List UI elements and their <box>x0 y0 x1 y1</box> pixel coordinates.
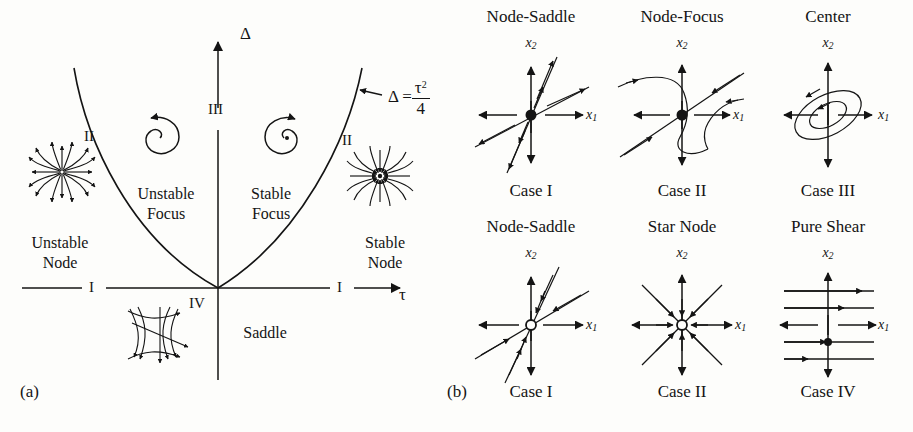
region-label-unstable-node-line1: Unstable <box>32 235 89 251</box>
case-marker-ii-left: II <box>84 129 94 144</box>
axis-label-x2-d2: x2 <box>676 36 687 51</box>
fixed-point-filled <box>526 110 537 121</box>
diagram-node-saddle-case-1b <box>475 267 589 383</box>
saddle-portrait <box>128 307 188 363</box>
case-marker-iii: III <box>208 102 223 117</box>
axis-label-x1-d6: x1 <box>878 318 889 333</box>
figure-root: Δ τ III II II I I IV Unstable Node Unsta… <box>0 0 913 432</box>
region-label-saddle: Saddle <box>243 325 287 341</box>
diagram-caption-pure-shear: Case IV <box>800 383 855 400</box>
region-label-stable-focus-line2: Focus <box>252 206 290 222</box>
unstable-node-portrait <box>29 142 95 202</box>
stable-focus-spiral <box>265 118 297 154</box>
diagram-title-node-focus: Node-Focus <box>640 8 723 25</box>
diagram-title-pure-shear: Pure Shear <box>791 218 865 235</box>
axis-label-x2-d5: x2 <box>676 246 687 261</box>
panel-a-trace-determinant-plane <box>0 0 456 432</box>
region-label-unstable-focus-line2: Focus <box>147 206 185 222</box>
stable-node-portrait <box>347 146 413 206</box>
region-label-stable-node-line2: Node <box>368 255 403 271</box>
axis-label-x1-d4: x1 <box>586 318 597 333</box>
axis-label-x2-d3: x2 <box>822 36 833 51</box>
diagram-caption-star-node: Case II <box>658 383 707 400</box>
parabola-equation-fraction: τ24 <box>412 78 430 118</box>
axis-label-x2-d1: x2 <box>525 36 536 51</box>
parabola-equation: Δ =τ24 <box>388 78 430 118</box>
fixed-point-filled <box>824 338 832 346</box>
panel-b-phase-portraits <box>456 0 913 432</box>
region-label-stable-node-line1: Stable <box>365 235 405 251</box>
unstable-focus-spiral <box>146 117 179 153</box>
case-marker-ii-right: II <box>342 133 352 148</box>
axis-label-x2-d4: x2 <box>525 246 536 261</box>
fixed-point-filled <box>677 110 688 121</box>
axis-label-x1-d2: x1 <box>733 108 744 123</box>
axis-label-x1-d1: x1 <box>586 108 597 123</box>
diagram-pure-shear-case-4 <box>780 273 876 377</box>
panel-a-label: (a) <box>20 383 39 400</box>
tau-axis-label: τ <box>399 286 406 303</box>
diagram-caption-center: Case III <box>801 182 855 199</box>
fixed-point-hollow <box>526 320 536 330</box>
diagram-node-focus-case-2-body <box>618 65 744 165</box>
diagram-title-star-node: Star Node <box>648 218 716 235</box>
case-marker-i-left: I <box>89 280 94 295</box>
diagram-title-node-saddle-1: Node-Saddle <box>487 8 576 25</box>
diagram-caption-node-saddle-1: Case I <box>510 182 553 199</box>
fixed-point-hollow <box>677 320 687 330</box>
axis-label-x2-d6: x2 <box>822 246 833 261</box>
diagram-title-node-saddle-2: Node-Saddle <box>487 218 576 235</box>
case-marker-i-right: I <box>337 280 342 295</box>
axis-label-x1-d5: x1 <box>735 318 746 333</box>
case-marker-iv: IV <box>189 296 205 311</box>
diagram-caption-node-focus: Case II <box>658 182 707 199</box>
diagram-title-center: Center <box>805 8 850 25</box>
diagram-center-case-3 <box>784 63 872 167</box>
parabola-equation-denominator: 4 <box>412 99 430 119</box>
diagram-node-saddle-case-1 <box>475 57 589 173</box>
parabola-equation-numerator: τ <box>415 78 422 97</box>
region-label-stable-focus-line1: Stable <box>251 186 291 202</box>
parabola-equation-lhs: Δ = <box>388 87 412 106</box>
axis-label-x1-d3: x1 <box>878 108 889 123</box>
diagram-caption-node-saddle-2: Case I <box>510 383 553 400</box>
parabola-equation-exponent: 2 <box>422 79 427 90</box>
parabola-equation-pointer <box>360 90 382 95</box>
diagram-star-node-case-2 <box>632 275 732 375</box>
delta-axis-label: Δ <box>240 25 251 42</box>
region-label-unstable-node-line2: Node <box>43 255 78 271</box>
region-label-unstable-focus-line1: Unstable <box>138 186 195 202</box>
